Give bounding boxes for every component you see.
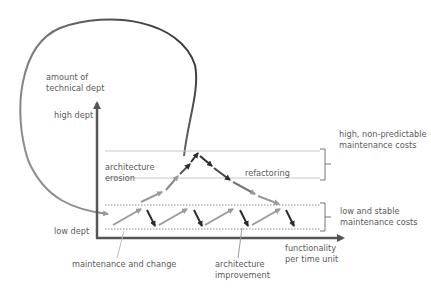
maintenance-and-change-label: maintenance and change (72, 259, 176, 270)
low-dept-label: low dept (54, 226, 89, 237)
y-axis-title-line2: technical dept (46, 83, 104, 94)
high-costs-line1: high, non-predictable (339, 129, 427, 140)
architecture-improvement-arrows (147, 210, 294, 226)
improvement-pointer-line (238, 228, 242, 258)
y-axis-title-line1: amount of (46, 72, 88, 83)
architecture-erosion-line1: architecture (105, 162, 155, 173)
low-costs-line2: maintenance costs (340, 217, 418, 228)
x-axis-title-line1: functionality (285, 243, 336, 254)
high-costs-bracket (320, 149, 331, 180)
refactoring-arrows (200, 156, 279, 204)
refactoring-label: refactoring (245, 168, 290, 179)
high-dept-label: high dept (54, 110, 93, 121)
low-costs-bracket (320, 203, 331, 231)
maintenance-pointer-line (117, 231, 124, 258)
high-costs-line2: maintenance costs (339, 140, 417, 151)
x-axis-title-line2: per time unit (285, 254, 338, 265)
architecture-erosion-line2: erosion (105, 173, 135, 184)
architecture-improvement-line1: architecture (215, 259, 265, 270)
low-costs-line1: low and stable (340, 206, 400, 217)
architecture-improvement-line2: improvement (215, 270, 270, 281)
